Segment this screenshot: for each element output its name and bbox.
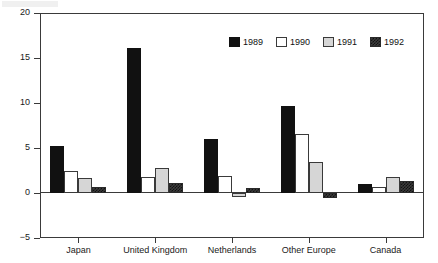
scan-artifact [2, 1, 58, 7]
legend-item-1991: 1991 [323, 37, 357, 47]
bar-canada-1989 [358, 184, 372, 193]
y-tick-label: 15 [4, 53, 30, 62]
y-tick [34, 58, 40, 59]
y-tick-label: 10 [4, 98, 30, 107]
legend-label-1989: 1989 [243, 37, 263, 47]
legend-item-1990: 1990 [276, 37, 310, 47]
bar-canada-1990 [372, 187, 386, 193]
x-tick [232, 238, 233, 243]
bar-united-kingdom-1989 [127, 48, 141, 193]
x-tick [155, 238, 156, 243]
bar-canada-1991 [386, 177, 400, 193]
bar-japan-1990 [64, 171, 78, 193]
chart-legend: 1989 1990 1991 1992 [229, 37, 404, 47]
legend-label-1991: 1991 [337, 37, 357, 47]
bar-united-kingdom-1991 [155, 168, 169, 193]
y-tick [34, 238, 40, 239]
legend-swatch-1990 [276, 37, 287, 47]
bar-japan-1992 [92, 187, 106, 193]
bar-netherlands-1992 [246, 188, 260, 193]
legend-item-1992: 1992 [370, 37, 404, 47]
legend-swatch-1992 [370, 37, 381, 47]
x-axis-label-united-kingdom: United Kingdom [123, 245, 187, 256]
x-axis-label-canada: Canada [370, 245, 402, 256]
y-tick [34, 148, 40, 149]
bar-japan-1991 [78, 178, 92, 193]
bar-netherlands-1991 [232, 193, 246, 197]
bar-netherlands-1990 [218, 176, 232, 193]
legend-swatch-1989 [229, 37, 240, 47]
bar-other-europe-1992 [323, 193, 337, 198]
y-tick [34, 103, 40, 104]
y-tick [34, 193, 40, 194]
bar-canada-1992 [400, 181, 414, 193]
x-axis-label-other-europe: Other Europe [282, 245, 336, 256]
x-tick [78, 238, 79, 243]
x-tick [386, 238, 387, 243]
x-axis-label-netherlands: Netherlands [208, 245, 257, 256]
bar-chart: 20151050−5 JapanUnited KingdomNetherland… [0, 0, 438, 263]
legend-swatch-1991 [323, 37, 334, 47]
y-tick-label: 20 [4, 8, 30, 17]
bar-other-europe-1991 [309, 162, 323, 193]
y-tick-label: 0 [4, 188, 30, 197]
bar-united-kingdom-1992 [169, 183, 183, 193]
bar-netherlands-1989 [204, 139, 218, 193]
legend-label-1990: 1990 [290, 37, 310, 47]
y-tick [34, 13, 40, 14]
y-tick-label: 5 [4, 143, 30, 152]
legend-label-1992: 1992 [384, 37, 404, 47]
legend-item-1989: 1989 [229, 37, 263, 47]
x-tick [309, 238, 310, 243]
bar-other-europe-1989 [281, 106, 295, 193]
bar-japan-1989 [50, 146, 64, 193]
bar-united-kingdom-1990 [141, 177, 155, 193]
y-tick-label: −5 [4, 233, 30, 242]
x-axis-label-japan: Japan [66, 245, 91, 256]
bar-other-europe-1990 [295, 134, 309, 193]
